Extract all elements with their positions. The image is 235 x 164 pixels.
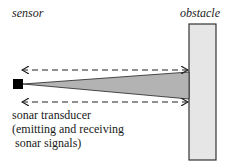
sensor-label: sensor	[12, 6, 44, 20]
obstacle-label: obstacle	[180, 6, 221, 20]
obstacle-wall	[189, 24, 216, 160]
sonar-beam-cone	[23, 72, 189, 99]
transducer-label-line-2: (emitting and receiving	[12, 122, 124, 136]
transducer-label-line-3: sonar signals)	[12, 136, 81, 150]
transducer-label-line-1: sonar transducer	[12, 108, 91, 122]
sonar-diagram: sensor obstacle sonar transducer (emitti…	[0, 0, 235, 164]
sonar-transducer-icon	[13, 79, 23, 89]
